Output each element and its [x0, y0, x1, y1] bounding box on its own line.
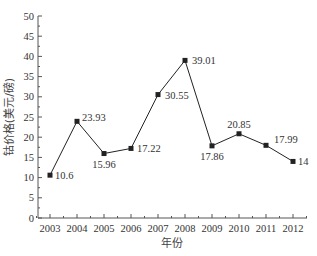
y-tick-label: 20 [24, 132, 35, 143]
data-point-label: 17.86 [200, 151, 224, 162]
data-labels: 10.623.9315.9617.2230.5539.0117.8620.851… [55, 55, 309, 181]
y-tick-label: 35 [24, 71, 35, 82]
y-tick-label: 30 [24, 91, 35, 102]
x-ticks: 2003200420052006200720082009201020112012 [37, 214, 307, 234]
x-tick-label: 2003 [40, 223, 61, 234]
x-tick-label: 2005 [94, 223, 115, 234]
x-tick-label: 2011 [256, 223, 277, 234]
square-marker-icon [102, 151, 107, 156]
data-point-label: 14 [298, 156, 309, 167]
y-axis-title: 钴价格(美元/磅) [2, 78, 16, 156]
y-tick-label: 50 [24, 11, 35, 22]
x-tick-label: 2006 [121, 223, 142, 234]
x-tick-label: 2004 [67, 223, 89, 234]
y-tick-label: 25 [24, 112, 35, 123]
data-point-label: 10.6 [55, 170, 73, 181]
square-marker-icon [183, 58, 188, 63]
data-point-label: 17.99 [274, 134, 298, 145]
y-tick-label: 5 [29, 192, 34, 203]
y-tick-label: 0 [29, 213, 34, 224]
x-tick-label: 2012 [283, 223, 304, 234]
data-point-label: 30.55 [165, 90, 189, 101]
square-marker-icon [75, 119, 80, 124]
data-point-label: 20.85 [227, 119, 251, 130]
square-marker-icon [291, 159, 296, 164]
data-point-label: 15.96 [92, 159, 116, 170]
data-point-label: 39.01 [192, 55, 216, 66]
y-ticks: 05101520253035404550 [24, 11, 43, 224]
square-marker-icon [237, 131, 242, 136]
square-marker-icon [156, 92, 161, 97]
square-marker-icon [264, 143, 269, 148]
y-tick-label: 45 [24, 31, 35, 42]
x-tick-label: 2009 [202, 223, 223, 234]
x-tick-label: 2010 [229, 223, 250, 234]
x-tick-label: 2007 [148, 223, 169, 234]
square-marker-icon [48, 173, 53, 178]
data-point-label: 17.22 [137, 143, 161, 154]
line-chart: 05101520253035404550 2003200420052006200… [0, 0, 317, 256]
x-axis-title: 年份 [161, 236, 183, 250]
axes [38, 16, 307, 218]
data-point-label: 23.93 [82, 112, 106, 123]
y-tick-label: 15 [24, 152, 35, 163]
square-marker-icon [129, 146, 134, 151]
y-tick-label: 10 [24, 172, 35, 183]
x-tick-label: 2008 [175, 223, 196, 234]
square-marker-icon [210, 143, 215, 148]
y-tick-label: 40 [24, 51, 35, 62]
